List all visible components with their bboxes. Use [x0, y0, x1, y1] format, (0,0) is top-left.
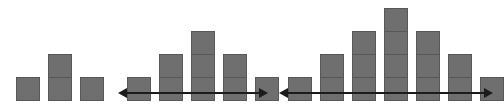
block-square	[416, 54, 440, 78]
arrow-head-right-icon	[484, 88, 493, 98]
block-square	[191, 31, 215, 55]
block-square	[448, 54, 472, 78]
block-square	[384, 77, 408, 101]
block-square	[416, 31, 440, 55]
block-square	[448, 77, 472, 101]
block-column	[16, 77, 40, 101]
block-square	[191, 54, 215, 78]
block-square	[223, 77, 247, 101]
block-column	[127, 77, 151, 101]
block-square	[159, 77, 183, 101]
block-square	[16, 77, 40, 101]
block-column	[352, 31, 376, 101]
block-square	[384, 31, 408, 55]
block-square	[320, 77, 344, 101]
block-square	[127, 77, 151, 101]
arrow-head-left-icon	[118, 88, 127, 98]
block-square	[384, 8, 408, 32]
block-square	[416, 77, 440, 101]
block-square	[352, 77, 376, 101]
block-square	[80, 77, 104, 101]
block-square	[320, 54, 344, 78]
arrow-head-right-icon	[259, 88, 268, 98]
block-column	[384, 8, 408, 101]
block-square	[352, 31, 376, 55]
block-square	[191, 77, 215, 101]
arrow-shaft	[127, 92, 259, 94]
block-column	[288, 77, 312, 101]
block-square	[159, 54, 183, 78]
block-square	[352, 54, 376, 78]
block-square	[48, 54, 72, 78]
block-column	[48, 54, 72, 101]
block-square	[384, 54, 408, 78]
block-square	[288, 77, 312, 101]
block-square	[48, 77, 72, 101]
arrow-shaft	[288, 92, 484, 94]
arrow-head-left-icon	[279, 88, 288, 98]
block-square	[223, 54, 247, 78]
block-column	[80, 77, 104, 101]
block-column	[191, 31, 215, 101]
block-column	[416, 31, 440, 101]
